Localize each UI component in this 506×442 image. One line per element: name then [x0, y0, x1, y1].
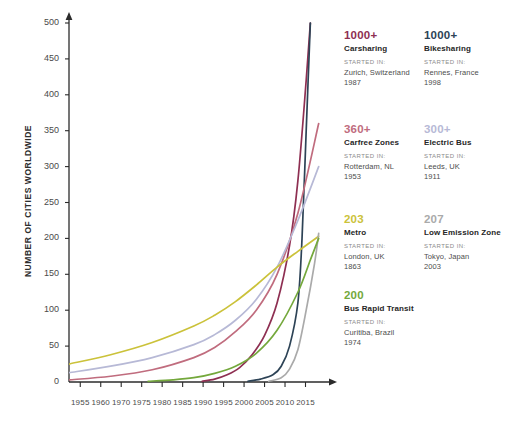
legend-entry-city: London, UK: [344, 252, 426, 262]
legend: 1000+CarsharingSTARTED IN:Zurich, Switze…: [340, 0, 506, 442]
legend-entry-started-label: STARTED IN:: [344, 57, 426, 68]
legend-entry-city: Leeds, UK: [424, 162, 506, 172]
legend-entry: 360+Carfree ZonesSTARTED IN:Rotterdam, N…: [344, 122, 426, 182]
legend-entry-year: 1974: [344, 338, 426, 348]
legend-entry-count: 1000+: [424, 28, 506, 42]
legend-entry-count: 200: [344, 288, 426, 302]
legend-entry-year: 1998: [424, 78, 506, 88]
legend-entry-name: Low Emission Zone: [424, 228, 506, 238]
legend-entry-city: Zurich, Switzerland: [344, 68, 426, 78]
legend-entry-name: Carfree Zones: [344, 138, 426, 148]
legend-entry: 1000+BikesharingSTARTED IN:Rennes, Franc…: [424, 28, 506, 88]
legend-entry-name: Bikesharing: [424, 44, 506, 54]
y-tick-label: 500: [29, 17, 59, 27]
y-tick-label: 450: [29, 53, 59, 63]
legend-entry-name: Bus Rapid Transit: [344, 304, 426, 314]
legend-entry-count: 1000+: [344, 28, 426, 42]
legend-entry-started-label: STARTED IN:: [344, 317, 426, 328]
legend-entry-name: Carsharing: [344, 44, 426, 54]
legend-entry: 1000+CarsharingSTARTED IN:Zurich, Switze…: [344, 28, 426, 88]
legend-entry-count: 300+: [424, 122, 506, 136]
legend-entry-year: 1953: [344, 172, 426, 182]
legend-entry-count: 360+: [344, 122, 426, 136]
y-tick-label: 400: [29, 89, 59, 99]
y-tick-label: 0: [29, 376, 59, 386]
legend-entry-city: Tokyo, Japan: [424, 252, 506, 262]
legend-entry-name: Electric Bus: [424, 138, 506, 148]
legend-entry: 200Bus Rapid TransitSTARTED IN:Curitiba,…: [344, 288, 426, 348]
legend-entry-year: 2003: [424, 262, 506, 272]
x-tick-label: 2015: [291, 398, 321, 407]
legend-entry-started-label: STARTED IN:: [424, 151, 506, 162]
legend-entry: 203MetroSTARTED IN:London, UK1863: [344, 212, 426, 272]
legend-entry-count: 207: [424, 212, 506, 226]
series-line: [148, 238, 319, 381]
legend-entry: 300+Electric BusSTARTED IN:Leeds, UK1911: [424, 122, 506, 182]
y-tick-label: 250: [29, 197, 59, 207]
legend-entry: 207Low Emission ZoneSTARTED IN:Tokyo, Ja…: [424, 212, 506, 272]
legend-entry-year: 1987: [344, 78, 426, 88]
y-tick-label: 50: [29, 340, 59, 350]
legend-entry-city: Curitiba, Brazil: [344, 328, 426, 338]
series-line: [69, 124, 319, 380]
legend-entry-year: 1911: [424, 172, 506, 182]
legend-entry-name: Metro: [344, 228, 426, 238]
legend-entry-year: 1863: [344, 262, 426, 272]
legend-entry-city: Rotterdam, NL: [344, 162, 426, 172]
legend-entry-started-label: STARTED IN:: [344, 241, 426, 252]
y-tick-label: 200: [29, 232, 59, 242]
chart-container: NUMBER OF CITIES WORLDWIDE 0501001502002…: [0, 0, 506, 442]
series-line: [69, 167, 319, 373]
legend-entry-count: 203: [344, 212, 426, 226]
legend-entry-started-label: STARTED IN:: [344, 151, 426, 162]
legend-entry-started-label: STARTED IN:: [424, 241, 506, 252]
legend-entry-city: Rennes, France: [424, 68, 506, 78]
legend-entry-started-label: STARTED IN:: [424, 57, 506, 68]
y-tick-label: 300: [29, 161, 59, 171]
plot-area: NUMBER OF CITIES WORLDWIDE 0501001502002…: [0, 0, 340, 442]
y-tick-label: 150: [29, 268, 59, 278]
y-tick-label: 350: [29, 125, 59, 135]
y-tick-label: 100: [29, 304, 59, 314]
